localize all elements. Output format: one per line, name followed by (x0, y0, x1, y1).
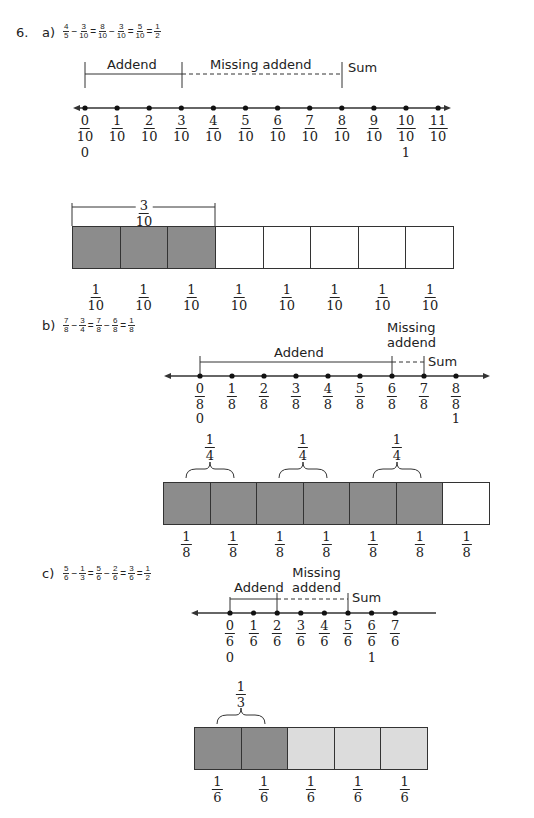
part-c-fraction-bar (194, 727, 428, 770)
bar-cell-dark (195, 728, 242, 769)
number-line-point (369, 610, 374, 615)
part-c-addend-label: Addend (234, 580, 284, 595)
number-line-point (251, 610, 256, 615)
bar-cell-label: 16 (399, 775, 409, 804)
number-line-tick-label: 76 (390, 619, 400, 648)
bar-cell-label: 16 (259, 775, 269, 804)
part-c-whole-zero: 0 (226, 650, 234, 665)
number-line-tick-label: 06 (225, 619, 235, 648)
part-c-number-line-graphics (0, 0, 534, 818)
part-c-sum-label: Sum (352, 590, 381, 605)
number-line-point (345, 610, 350, 615)
number-line-point (322, 610, 327, 615)
bar-cell-light (381, 728, 427, 769)
number-line-point (227, 610, 232, 615)
number-line-tick-label: 16 (248, 619, 258, 648)
bar-cell-dark (242, 728, 289, 769)
number-line-tick-label: 46 (319, 619, 329, 648)
bar-cell-label: 16 (353, 775, 363, 804)
number-line-point (275, 610, 280, 615)
bar-cell-label: 16 (306, 775, 316, 804)
number-line-tick-label: 26 (272, 619, 282, 648)
bar-cell-light (335, 728, 382, 769)
part-c-missing-addend-label: Missing addend (292, 565, 341, 595)
bar-cell-label: 16 (212, 775, 222, 804)
number-line-tick-label: 56 (343, 619, 353, 648)
number-line-point (298, 610, 303, 615)
part-c-brace-fraction: 1 3 (236, 680, 246, 709)
part-c-whole-one: 1 (368, 650, 376, 665)
number-line-tick-label: 66 (366, 619, 376, 648)
bar-cell-light (288, 728, 335, 769)
number-line-tick-label: 36 (296, 619, 306, 648)
number-line-point (393, 610, 398, 615)
